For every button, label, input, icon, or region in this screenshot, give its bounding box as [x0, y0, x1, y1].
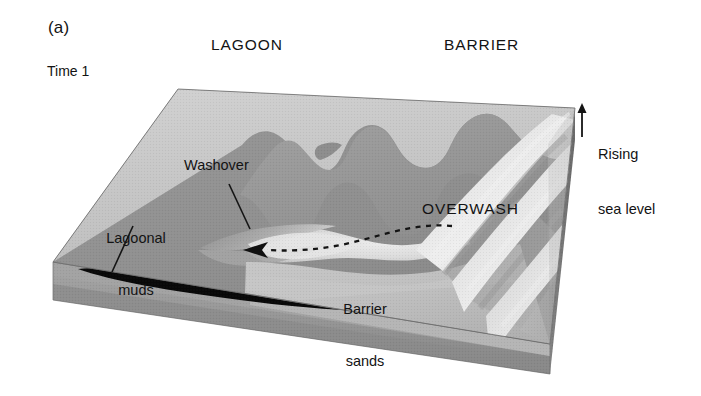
sea-level-arrowhead — [578, 103, 587, 113]
label-lagoonal-muds-line1: Lagoonal — [88, 230, 184, 247]
figure-panel-a: (a) Time 1 LAGOON BARRIER Washover Lagoo… — [0, 0, 701, 396]
header-barrier: BARRIER — [444, 36, 519, 54]
label-lagoonal-muds: Lagoonal muds — [88, 196, 184, 333]
sea-level-arrow — [578, 103, 587, 137]
label-barrier-sands: Barrier sands — [326, 267, 404, 396]
time-label: Time 1 — [47, 63, 89, 80]
label-lagoonal-muds-line2: muds — [88, 282, 184, 299]
label-barrier-sands-line1: Barrier — [326, 301, 404, 318]
label-washover: Washover — [184, 157, 249, 174]
label-rising-sea-level-line2: sea level — [598, 200, 655, 218]
label-barrier-sands-line2: sands — [326, 353, 404, 370]
label-rising-sea-level: Rising sea level — [598, 109, 655, 254]
label-rising-sea-level-line1: Rising — [598, 145, 655, 163]
header-lagoon: LAGOON — [211, 36, 283, 54]
panel-letter: (a) — [48, 18, 69, 38]
label-overwash: OVERWASH — [422, 200, 519, 218]
